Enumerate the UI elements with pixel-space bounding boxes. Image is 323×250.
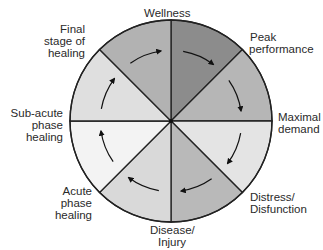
label-acute-phase-healing: Acute phase healing xyxy=(50,185,92,221)
label-line: performance xyxy=(249,43,314,55)
label-final-stage-of-healing: Final stage of healing xyxy=(37,23,85,59)
label-disease-injury: Disease/ Injury xyxy=(150,224,194,248)
label-line: healing xyxy=(37,47,85,59)
label-peak-performance: Peak performance xyxy=(249,31,314,55)
center-dot xyxy=(169,119,173,123)
label-line: phase xyxy=(50,197,92,209)
label-line: Disfunction xyxy=(250,203,307,215)
label-line: demand xyxy=(278,123,321,135)
label-line: stage of xyxy=(37,35,85,47)
label-distress-disfunction: Distress/ Disfunction xyxy=(250,191,307,215)
label-line: Injury xyxy=(150,236,194,248)
label-maximal-demand: Maximal demand xyxy=(278,111,321,135)
label-line: Distress/ xyxy=(250,191,307,203)
label-sub-acute-phase-healing: Sub-acute phase healing xyxy=(8,107,63,143)
label-line: healing xyxy=(50,209,92,221)
label-line: Acute xyxy=(50,185,92,197)
label-line: phase xyxy=(8,119,63,131)
label-line: Disease/ xyxy=(150,224,194,236)
label-line: healing xyxy=(8,131,63,143)
label-line: Wellness xyxy=(144,7,190,19)
label-line: Maximal xyxy=(278,111,321,123)
label-line: Sub-acute xyxy=(8,107,63,119)
wheel-sectors xyxy=(70,20,272,222)
label-wellness: Wellness xyxy=(144,7,190,19)
label-line: Peak xyxy=(249,31,314,43)
label-line: Final xyxy=(37,23,85,35)
